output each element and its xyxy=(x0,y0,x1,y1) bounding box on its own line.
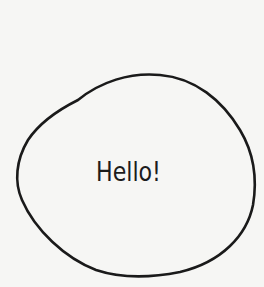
hello-text: Hello! xyxy=(96,158,161,185)
blob-outline xyxy=(0,0,264,287)
drawing-canvas: Hello! xyxy=(0,0,264,287)
